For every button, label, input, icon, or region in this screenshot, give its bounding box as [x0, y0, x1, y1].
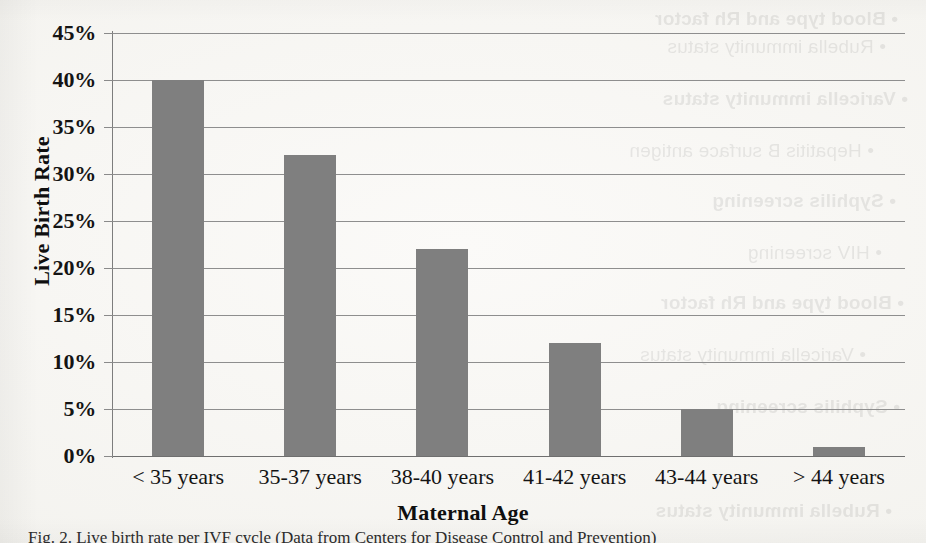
bar	[416, 249, 468, 456]
y-axis-tick-label: 40%	[6, 69, 96, 91]
y-axis-tick-label: 35%	[6, 116, 96, 138]
plot-area	[112, 33, 905, 456]
bar	[549, 343, 601, 456]
y-axis-tick-label: 30%	[6, 163, 96, 185]
x-axis-tick-label: 38-40 years	[376, 466, 508, 488]
y-axis-tick-mark	[104, 456, 113, 457]
bar	[813, 447, 865, 456]
figure-caption: Fig. 2. Live birth rate per IVF cycle (D…	[28, 528, 908, 543]
gridline	[112, 456, 905, 457]
y-axis-tick-label: 0%	[6, 445, 96, 467]
y-axis-tick-label: 5%	[6, 398, 96, 420]
x-axis-tick-label: 43-44 years	[641, 466, 773, 488]
x-axis-title: Maternal Age	[0, 500, 926, 526]
y-axis-tick-label: 15%	[6, 304, 96, 326]
x-axis-tick-label: 41-42 years	[509, 466, 641, 488]
y-axis-tick-label: 25%	[6, 210, 96, 232]
bar	[284, 155, 336, 456]
x-axis-tick-label: > 44 years	[773, 466, 905, 488]
bar-chart: Live Birth Rate 0%5%10%15%20%25%30%35%40…	[0, 0, 926, 543]
y-axis-tick-label: 45%	[6, 22, 96, 44]
bar	[681, 409, 733, 456]
x-axis-tick-label: < 35 years	[112, 466, 244, 488]
scanned-page: • Blood type and Rh factor • Rubella imm…	[0, 0, 926, 543]
bar	[152, 80, 204, 456]
x-axis-tick-label: 35-37 years	[244, 466, 376, 488]
y-axis-tick-label: 10%	[6, 351, 96, 373]
y-axis-tick-label: 20%	[6, 257, 96, 279]
